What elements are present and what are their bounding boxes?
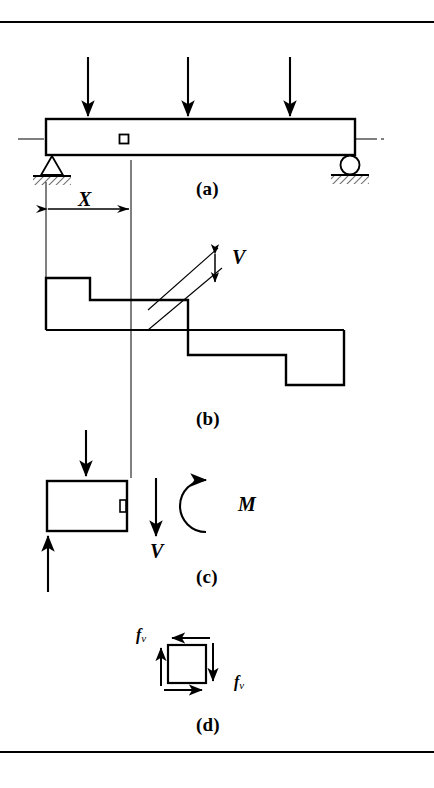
panel-label-a: (a) [196,178,219,200]
beam-shear-figure: X V V M fv fv (a) (b) (c) (d) [0,0,434,788]
panel-label-c: (c) [196,566,218,588]
shear-stress-label-right: fv [234,673,244,691]
fbd-segment-block [47,481,127,531]
shear-guide-lines [148,248,222,330]
stress-element-square [168,645,206,683]
dimension-x-label: X [78,188,91,211]
fbd-moment-m-label: M [238,493,256,516]
panel-label-d: (d) [196,714,220,736]
figure-canvas [0,0,434,788]
shear-stress-subscript-right: v [239,679,244,691]
panel-label-b: (b) [196,408,220,430]
beam-load-arrows [88,57,290,116]
fbd-shear-v-label: V [150,540,163,563]
shear-stress-subscript-left: v [141,632,146,644]
beam-body [46,119,355,155]
panel-b-shear-diagram [46,248,344,385]
panel-c-free-body [47,430,206,592]
fbd-element-marker [120,500,126,512]
beam-element-marker [120,135,129,144]
pin-support [33,156,71,185]
shear-v-label: V [232,246,245,269]
shear-diagram-outline [46,278,344,385]
roller-support [331,156,369,185]
fbd-moment-arc [180,480,206,532]
panel-d-stress-element [161,638,213,690]
shear-stress-label-left: fv [136,626,146,644]
